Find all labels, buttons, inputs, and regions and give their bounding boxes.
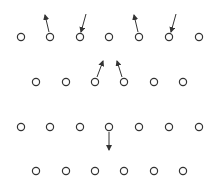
displacement-arrow-icon	[134, 15, 138, 32]
atom-circle	[46, 33, 53, 40]
displacement-arrow-icon	[45, 15, 49, 32]
displacement-arrow-icon	[117, 61, 122, 77]
atom-grid	[17, 33, 202, 174]
displacement-arrow-icon	[171, 14, 176, 32]
lattice-diagram	[0, 0, 219, 185]
displacement-arrow-icon	[97, 61, 103, 77]
atom-circle	[91, 167, 98, 174]
atom-circle	[17, 123, 24, 130]
atom-circle	[17, 33, 24, 40]
atom-circle	[135, 123, 142, 130]
atom-circle	[32, 78, 39, 85]
atom-circle	[195, 123, 202, 130]
atom-circle	[91, 78, 98, 85]
atom-circle	[150, 167, 157, 174]
atom-circle	[165, 33, 172, 40]
atom-circle	[62, 78, 69, 85]
atom-circle	[120, 78, 127, 85]
atom-circle	[76, 33, 83, 40]
atom-circle	[179, 167, 186, 174]
atom-circle	[105, 123, 112, 130]
atom-circle	[46, 123, 53, 130]
atom-circle	[62, 167, 69, 174]
displacement-arrow-icon	[81, 14, 86, 32]
atom-circle	[32, 167, 39, 174]
atom-circle	[120, 167, 127, 174]
atom-circle	[105, 33, 112, 40]
atom-circle	[135, 33, 142, 40]
atom-circle	[165, 123, 172, 130]
atom-circle	[179, 78, 186, 85]
atom-circle	[76, 123, 83, 130]
atom-circle	[150, 78, 157, 85]
atom-circle	[195, 33, 202, 40]
